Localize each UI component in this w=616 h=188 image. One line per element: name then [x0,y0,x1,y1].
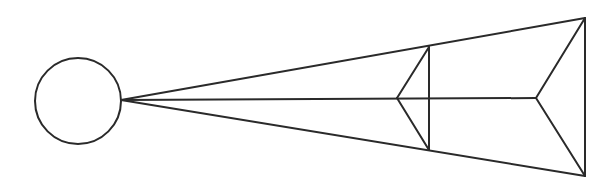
cone-upper-edge [121,18,585,100]
central-axis [121,98,536,100]
outer-chevron-lower [536,98,585,176]
source-circle [35,58,121,144]
inner-chevron-lower [397,98,429,150]
outer-chevron-upper [536,18,585,98]
inner-chevron-upper [397,47,429,98]
cone-lower-edge [121,100,585,176]
cone-diagram [0,0,616,188]
